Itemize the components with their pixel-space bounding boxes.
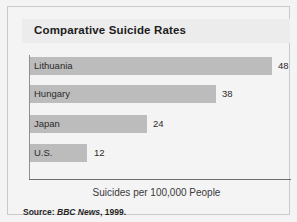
bar-value-label: 12 [94, 147, 105, 159]
source-publication: BBC News [57, 207, 100, 217]
bar-category-label: Hungary [34, 88, 70, 100]
source-note: Source: BBC News, 1999. [23, 207, 126, 217]
bar-value-label: 38 [222, 88, 233, 100]
bar-category-label: U.S. [34, 147, 52, 159]
bar-value-label: 24 [153, 118, 164, 130]
chart-frame: Comparative Suicide Rates Lithuania 48 H… [7, 6, 290, 215]
bar-category-label: Japan [34, 118, 60, 130]
plot-area: Lithuania 48 Hungary 38 Japan 24 U.S. 12 [22, 55, 291, 181]
bar-category-label: Lithuania [34, 60, 73, 72]
source-label: Source: [23, 207, 55, 217]
chart-figure: Comparative Suicide Rates Lithuania 48 H… [0, 0, 297, 222]
x-axis-line [29, 179, 291, 180]
bar-value-label: 48 [278, 60, 289, 72]
source-year: , 1999. [100, 207, 126, 217]
chart-title: Comparative Suicide Rates [34, 24, 186, 36]
x-axis-caption: Suicides per 100,000 People [22, 187, 291, 198]
